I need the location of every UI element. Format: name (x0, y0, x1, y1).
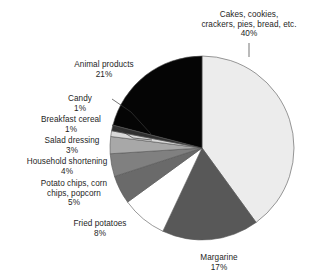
slice-label-candy: Candy 1% (28, 94, 132, 113)
slice-label-animal-products: Animal products 21% (44, 60, 164, 79)
slice-label-animal-products-line1: Animal products (44, 60, 164, 70)
slice-label-potato-chips-line1: Potato chips, corn (18, 179, 130, 189)
slice-label-potato-chips-percent: 5% (18, 198, 130, 208)
slice-label-salad-dressing-line1: Salad dressing (12, 136, 132, 146)
slice-label-candy-percent: 1% (28, 104, 132, 114)
slice-label-household-shortening-line1: Household shortening (0, 157, 134, 167)
slice-label-breakfast-cereal-line1: Breakfast cereal (10, 115, 132, 125)
slice-label-candy-line1: Candy (28, 94, 132, 104)
slice-label-potato-chips-line2: chips, popcorn (18, 189, 130, 199)
slice-label-cakes-line1: Cakes, cookies, (186, 10, 312, 20)
slice-label-fried-potatoes-line1: Fried potatoes (42, 219, 158, 229)
slice-label-salad-dressing-percent: 3% (12, 146, 132, 156)
slice-label-cakes-line2: crackers, pies, bread, etc. (186, 20, 312, 30)
slice-label-fried-potatoes: Fried potatoes 8% (42, 219, 158, 238)
slice-label-fried-potatoes-percent: 8% (42, 229, 158, 239)
slice-label-margarine-percent: 17% (164, 263, 274, 273)
slice-label-salad-dressing: Salad dressing 3% (12, 136, 132, 155)
slice-label-breakfast-cereal: Breakfast cereal 1% (10, 115, 132, 134)
pie-chart: Cakes, cookies, crackers, pies, bread, e… (0, 0, 313, 279)
pie-slices-group (110, 56, 294, 240)
slice-label-breakfast-cereal-percent: 1% (10, 125, 132, 135)
slice-label-potato-chips: Potato chips, corn chips, popcorn 5% (18, 179, 130, 208)
slice-label-margarine-line1: Margarine (164, 253, 274, 263)
slice-label-household-shortening: Household shortening 4% (0, 157, 134, 176)
slice-label-animal-products-percent: 21% (44, 70, 164, 80)
slice-label-margarine: Margarine 17% (164, 253, 274, 272)
slice-label-cakes-percent: 40% (186, 29, 312, 39)
slice-label-cakes: Cakes, cookies, crackers, pies, bread, e… (186, 10, 312, 39)
slice-label-household-shortening-percent: 4% (0, 167, 134, 177)
